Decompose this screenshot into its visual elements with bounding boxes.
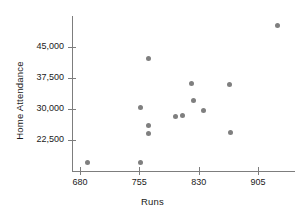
data-point bbox=[146, 56, 151, 61]
data-point bbox=[275, 23, 280, 28]
data-point bbox=[146, 131, 151, 136]
data-point bbox=[189, 81, 194, 86]
scatter-chart: Home Attendance 22,50030,00037,50045,000… bbox=[0, 0, 305, 215]
plot-area bbox=[0, 0, 305, 215]
data-point bbox=[228, 130, 233, 135]
data-point bbox=[146, 123, 151, 128]
data-point bbox=[227, 82, 232, 87]
data-point bbox=[173, 114, 178, 119]
data-point bbox=[201, 108, 206, 113]
x-axis-title: Runs bbox=[0, 196, 305, 207]
data-point bbox=[180, 113, 185, 118]
data-point bbox=[85, 160, 90, 165]
data-point bbox=[138, 105, 143, 110]
data-point bbox=[191, 98, 196, 103]
data-point bbox=[138, 160, 143, 165]
